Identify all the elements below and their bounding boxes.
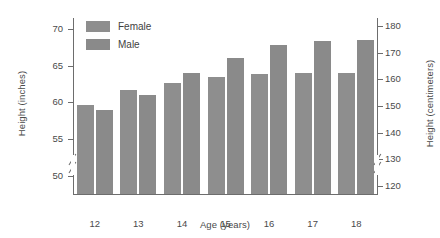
legend: FemaleMale [86,20,151,56]
y-axis-left-tick-label: 50 [29,170,63,181]
y-axis-right-tick-label: 170 [385,47,419,58]
bar-female-age-13 [120,90,137,194]
bar-chart: Height (inches) Height (centimeters) Age… [0,0,440,238]
bar-male-age-15 [227,58,244,194]
y-axis-left-tick-label: 70 [29,23,63,34]
y-axis-right-title: Height (centimeters) [424,49,435,159]
y-axis-right-tick-label: 120 [385,180,419,191]
bar-female-age-14 [164,83,181,194]
legend-item-female: Female [86,20,151,32]
y-axis-right-tick-label: 130 [385,153,419,164]
y-axis-right-tick-label: 160 [385,73,419,84]
x-axis-tick-label: 13 [118,218,158,229]
y-axis-left-tick [68,139,73,140]
bar-female-age-15 [208,77,225,194]
bar-female-age-18 [338,73,355,194]
x-axis-line [73,194,378,195]
bar-female-age-17 [295,73,312,194]
bar-male-age-14 [183,73,200,194]
y-axis-right-tick-label: 180 [385,20,419,31]
y-axis-right-tick [378,106,383,107]
bar-male-age-17 [314,41,331,194]
y-axis-left-tick [68,29,73,30]
bar-male-age-12 [96,110,113,194]
legend-swatch-male [86,39,110,50]
y-axis-left-tick-label: 55 [29,133,63,144]
x-axis-tick-label: 17 [293,218,333,229]
y-axis-left-tick [68,66,73,67]
y-axis-right-tick [378,79,383,80]
y-axis-left-tick-label: 65 [29,60,63,71]
x-axis-tick-label: 12 [75,218,115,229]
y-axis-right-tick [378,186,383,187]
x-axis-tick-label: 15 [206,218,246,229]
y-axis-left-tick-label: 60 [29,96,63,107]
y-axis-left-tick [68,102,73,103]
bar-female-age-16 [251,74,268,194]
bar-male-age-16 [270,45,287,194]
x-axis-tick-label: 16 [249,218,289,229]
bar-male-age-13 [139,95,156,194]
x-axis-tick-label: 14 [162,218,202,229]
legend-swatch-female [86,21,110,32]
y-axis-left-break-mask [71,155,75,175]
legend-label-male: Male [118,39,140,50]
x-axis-tick-label: 18 [336,218,376,229]
y-axis-left-title: Height (inches) [16,49,27,159]
y-axis-right-break-mask [375,155,379,175]
bar-female-age-12 [77,105,94,194]
legend-label-female: Female [118,21,151,32]
y-axis-right-tick [378,53,383,54]
y-axis-right-tick-label: 150 [385,100,419,111]
y-axis-right-tick [378,26,383,27]
legend-item-male: Male [86,38,151,50]
y-axis-right-tick [378,133,383,134]
y-axis-right-tick-label: 140 [385,127,419,138]
